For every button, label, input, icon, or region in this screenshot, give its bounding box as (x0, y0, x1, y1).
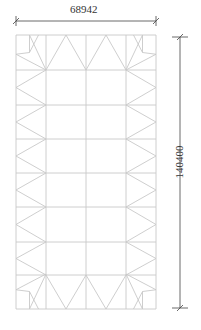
dimension-lines (13, 16, 188, 311)
truss-grid (16, 35, 156, 309)
truss-plan-drawing (0, 0, 201, 330)
